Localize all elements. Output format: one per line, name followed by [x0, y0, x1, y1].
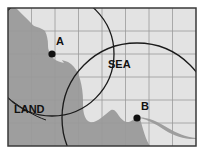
point-a-marker[interactable]: [48, 50, 55, 57]
land-sea-map-diagram: A B SEA LAND: [0, 0, 204, 154]
point-a-label: A: [56, 35, 64, 47]
land-label: LAND: [14, 103, 45, 115]
point-b-label: B: [141, 100, 149, 112]
sea-label: SEA: [108, 58, 131, 70]
point-b-marker[interactable]: [133, 114, 140, 121]
map-svg: A B SEA LAND: [0, 0, 204, 154]
